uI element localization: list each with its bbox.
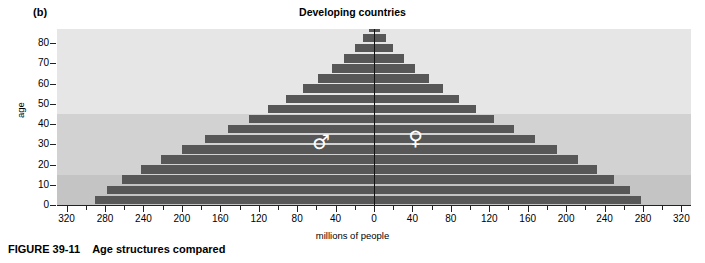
bar-female-80-84 [374,34,386,43]
bar-male-80-84 [363,34,374,43]
y-tick-50 [50,104,56,105]
bar-male-45-49 [268,105,374,114]
x-minor-tick-8 [393,206,394,210]
bar-female-30-34 [374,135,535,144]
y-tick-80 [50,43,56,44]
bar-female-40-44 [374,115,494,124]
bar-male-55-59 [303,84,374,93]
x-tick-label-16: 320 [661,213,701,224]
bar-female-0-4 [374,196,641,205]
bar-male-50-54 [286,95,374,104]
bar-female-65-69 [374,64,415,73]
x-minor-tick-4 [240,206,241,210]
bar-female-25-29 [374,145,557,154]
x-tick-label-1: 280 [85,213,125,224]
x-tick-3 [182,206,183,212]
bar-male-30-34 [205,135,374,144]
x-minor-tick-13 [585,206,586,210]
bar-female-55-59 [374,84,443,93]
x-minor-tick-9 [432,206,433,210]
bar-male-70-74 [344,54,374,63]
x-minor-tick-6 [316,206,317,210]
y-tick-label-70: 70 [9,57,49,68]
x-tick-label-7: 40 [316,213,356,224]
y-tick-label-10: 10 [9,179,49,190]
bar-female-60-64 [374,74,429,83]
x-tick-label-3: 200 [162,213,202,224]
x-minor-tick-5 [278,206,279,210]
y-tick-label-20: 20 [9,159,49,170]
x-tick-11 [489,206,490,212]
x-tick-16 [681,206,682,212]
x-tick-label-2: 240 [123,213,163,224]
x-tick-10 [451,206,452,212]
bar-male-75-79 [355,44,374,53]
bar-male-25-29 [182,145,374,154]
bar-female-50-54 [374,95,459,104]
x-minor-tick-3 [201,206,202,210]
y-tick-30 [50,144,56,145]
x-minor-tick-14 [624,206,625,210]
x-minor-tick-2 [163,206,164,210]
y-tick-label-80: 80 [9,37,49,48]
x-minor-tick-0 [86,206,87,210]
y-tick-label-50: 50 [9,98,49,109]
y-tick-label-60: 60 [9,78,49,89]
male-symbol: ♂ [312,132,330,152]
x-minor-tick-15 [662,206,663,210]
y-tick-label-30: 30 [9,138,49,149]
x-tick-label-11: 120 [469,213,509,224]
x-tick-label-13: 200 [546,213,586,224]
y-axis-labels: 01020304050607080 [5,0,49,263]
bar-female-45-49 [374,105,476,114]
x-tick-9 [412,206,413,212]
y-tick-label-40: 40 [9,118,49,129]
bar-male-40-44 [249,115,374,124]
y-tick-40 [50,124,56,125]
x-minor-tick-12 [547,206,548,210]
female-symbol: ♀ [408,128,423,148]
x-tick-8 [374,206,375,212]
y-tick-0 [50,205,56,206]
x-minor-tick-7 [355,206,356,210]
x-axis-title: millions of people [0,230,705,241]
y-tick-60 [50,84,56,85]
chart-title: Developing countries [0,6,705,18]
figure-caption-text: Age structures compared [92,243,225,255]
x-tick-label-4: 160 [200,213,240,224]
x-tick-label-5: 120 [239,213,279,224]
bar-female-10-14 [374,175,614,184]
bar-female-70-74 [374,54,404,63]
x-tick-1 [105,206,106,212]
bar-female-75-79 [374,44,393,53]
bar-male-0-4 [95,196,374,205]
y-tick-70 [50,63,56,64]
x-tick-label-6: 80 [277,213,317,224]
y-tick-10 [50,185,56,186]
x-tick-label-12: 160 [508,213,548,224]
x-tick-6 [297,206,298,212]
x-tick-label-10: 80 [431,213,471,224]
x-tick-5 [259,206,260,212]
bar-female-5-9 [374,186,630,195]
population-pyramid-plot: ♂ ♀ [57,29,691,205]
bar-male-65-69 [332,64,374,73]
x-tick-7 [336,206,337,212]
x-tick-4 [220,206,221,212]
x-tick-0 [67,206,68,212]
bar-male-15-19 [141,165,374,174]
center-axis-line [374,29,375,205]
x-tick-label-15: 280 [623,213,663,224]
bar-male-20-24 [161,155,374,164]
bar-female-15-19 [374,165,597,174]
y-tick-20 [50,165,56,166]
bar-male-10-14 [122,175,374,184]
x-tick-12 [528,206,529,212]
bar-female-20-24 [374,155,578,164]
bar-male-5-9 [107,186,374,195]
x-minor-tick-10 [470,206,471,210]
x-minor-tick-1 [124,206,125,210]
bar-male-35-39 [228,125,374,134]
x-tick-13 [566,206,567,212]
y-tick-label-0: 0 [9,199,49,210]
